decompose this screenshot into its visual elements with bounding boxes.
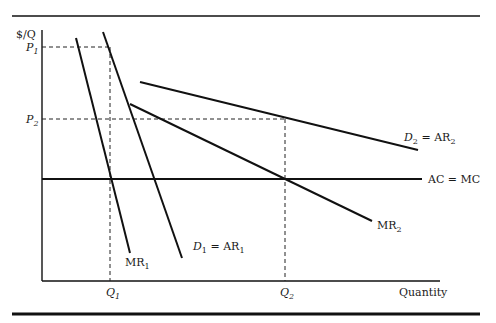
mr1-curve — [76, 38, 130, 253]
p2-label: P2 — [25, 113, 39, 128]
mr2-label: MR2 — [377, 219, 402, 234]
mr2-curve — [130, 104, 372, 221]
price-discrimination-diagram: $/Q Quantity P1 P2 Q1 Q2 MR1 D1 = AR1 D2… — [0, 0, 496, 323]
d1-ar1-curve — [103, 32, 182, 258]
d2-ar2-curve — [140, 82, 418, 150]
q2-label: Q2 — [280, 286, 294, 301]
ac-mc-label: AC = MC — [427, 173, 480, 186]
d2-ar2-label: D2 = AR2 — [403, 131, 455, 146]
mr1-label: MR1 — [125, 256, 150, 271]
x-axis-label: Quantity — [399, 286, 448, 299]
q1-label: Q1 — [106, 286, 120, 301]
p1-label: P1 — [25, 41, 39, 56]
y-axis-label: $/Q — [16, 28, 36, 41]
d1-ar1-label: D1 = AR1 — [192, 240, 244, 255]
